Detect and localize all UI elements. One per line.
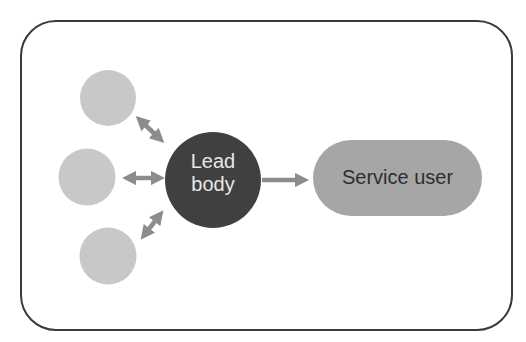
- peer-node-top: [80, 70, 136, 126]
- service-user-label: Service user: [313, 166, 482, 189]
- bidirectional-arrow-bottom: [145, 216, 159, 234]
- peer-node-bottom: [80, 228, 137, 285]
- lead-body-label: Lead body: [165, 150, 261, 196]
- bidirectional-arrow-top: [141, 121, 159, 138]
- lead-body-label-line2: body: [165, 173, 261, 196]
- lead-body-label-line1: Lead: [165, 150, 261, 173]
- peer-node-middle: [59, 149, 116, 206]
